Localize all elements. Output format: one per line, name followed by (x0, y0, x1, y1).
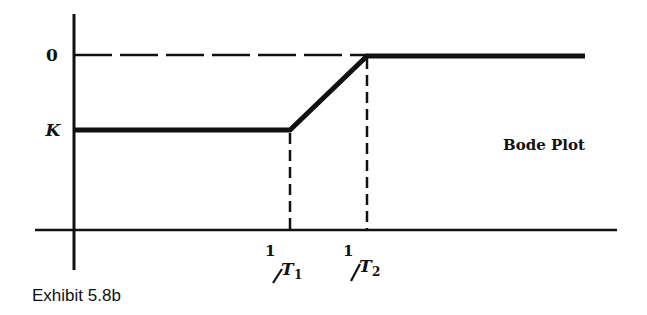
x-tick-2-subscript: 2 (372, 265, 380, 279)
x-tick-1-subscript: 1 (294, 268, 302, 282)
x-tick-2-numerator: 1 (343, 242, 353, 260)
x-tick-1-denominator: T (281, 259, 295, 279)
magnitude-curve (74, 56, 585, 130)
y-tick-zero: 0 (46, 45, 58, 65)
x-tick-1-numerator: 1 (265, 242, 275, 260)
x-tick-2-denominator: T (359, 256, 373, 276)
y-tick-k: K (45, 120, 62, 140)
bode-plot-figure: 0 K 1 T 1 1 T 2 Bode Plot Exhibit 5.8b (0, 0, 647, 315)
exhibit-caption: Exhibit 5.8b (32, 286, 121, 305)
x-tick-1-over-t2: 1 T 2 (343, 242, 380, 281)
x-tick-1-over-t1: 1 T 1 (265, 242, 302, 283)
plot-title: Bode Plot (503, 136, 585, 154)
